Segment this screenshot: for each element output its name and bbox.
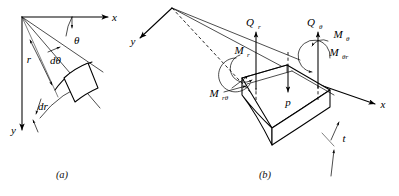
- panel-b-label-Mthetar: M θr: [328, 46, 348, 61]
- label-Mrtheta-sub: rθ: [222, 94, 229, 102]
- panel-a-dr-tick-lower: [33, 120, 38, 132]
- label-Qr-base: Q: [246, 16, 254, 28]
- panel-a-r-label: r: [27, 53, 32, 65]
- panel-b-caption: (b): [259, 169, 272, 181]
- panel-a-caption: (a): [56, 169, 69, 181]
- panel-b-Mthetar-moment-arc: [298, 40, 330, 72]
- panel-a-x-axis-label: x: [111, 11, 117, 23]
- figure-svg: x y θ dθ r dr (a): [0, 0, 399, 196]
- panel-b-Mrtheta-leader2: [224, 86, 246, 92]
- panel-b-label-Mtheta: M θ: [332, 28, 350, 43]
- panel-b-label-p: p: [284, 96, 291, 108]
- label-Mtheta-base: M: [332, 28, 343, 40]
- panel-b-label-Qr: Q r: [246, 16, 261, 31]
- panel-b-thickness-leader: [322, 133, 334, 146]
- panel-a-element-face: [64, 63, 98, 102]
- panel-a-dr-label: dr: [38, 100, 49, 112]
- panel-b-label-Qtheta: Q θ: [307, 16, 323, 31]
- label-Qtheta-base: Q: [307, 16, 315, 28]
- panel-b-group: Q r Q θ M r M θ M rθ M θr: [130, 8, 386, 181]
- label-Qtheta-sub: θ: [319, 23, 323, 31]
- panel-b-y-axis-label: y: [130, 35, 136, 47]
- label-Mtheta-sub: θ: [346, 35, 350, 43]
- label-Mthetar-sub: θr: [342, 53, 348, 61]
- panel-b-thickness-label: t: [342, 132, 346, 144]
- panel-a-theta-arc: [66, 17, 72, 36]
- panel-a-theta-label: θ: [74, 34, 80, 46]
- panel-a-y-axis-label: y: [10, 124, 16, 136]
- panel-b-x-axis-label: x: [380, 98, 386, 110]
- label-Mr-sub: r: [247, 51, 250, 59]
- panel-a-dtheta-label: dθ: [50, 54, 62, 66]
- panel-b-thickness-arrow-up: [331, 122, 339, 140]
- label-Mr-base: M: [233, 44, 244, 56]
- panel-b-thickness-arrow-down: [331, 150, 334, 176]
- figure-container: x y θ dθ r dr (a): [0, 0, 399, 196]
- label-Qr-sub: r: [258, 23, 261, 31]
- label-Mthetar-base: M: [328, 46, 339, 58]
- panel-a-r-arrow-up: [30, 40, 40, 60]
- panel-b-y-axis: [140, 8, 172, 38]
- label-Mrtheta-base: M: [208, 87, 219, 99]
- panel-a-radial-ray-outer: [22, 17, 100, 108]
- panel-a-group: x y θ dθ r dr (a): [10, 11, 117, 181]
